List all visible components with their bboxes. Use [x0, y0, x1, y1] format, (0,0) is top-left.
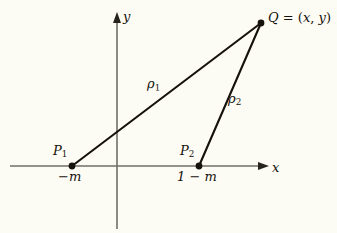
x-axis-label: x — [272, 161, 279, 174]
rho2-symbol: ρ — [228, 91, 236, 106]
point-q-label: Q = (x, y) — [268, 11, 331, 24]
q-close-paren: ) — [326, 10, 331, 25]
p1-symbol: P — [53, 143, 62, 158]
p1-subscript: 1 — [62, 149, 68, 159]
rho1-symbol: ρ — [147, 76, 155, 91]
y-axis — [113, 12, 121, 229]
p2-subscript: 2 — [189, 149, 195, 159]
geometry-figure: y x Q = (x, y) P1 P2 −m 1 − m ρ1 ρ2 — [0, 0, 337, 233]
x-axis-arrowhead-icon — [258, 162, 269, 170]
rho2-subscript: 2 — [236, 97, 242, 107]
q-symbol: Q — [268, 10, 279, 25]
y-axis-label: y — [123, 10, 130, 23]
segment-rho2-label: ρ2 — [228, 92, 241, 107]
diagram-canvas — [0, 0, 337, 233]
tick-label-p2: 1 − m — [177, 170, 217, 183]
point-q-dot — [258, 20, 265, 27]
rho1-subscript: 1 — [155, 82, 161, 92]
p2-symbol: P — [180, 143, 189, 158]
tick-label-p1: −m — [58, 170, 81, 183]
x-axis — [10, 162, 269, 170]
point-p1-label: P1 — [53, 144, 67, 159]
q-y-component: y — [319, 10, 326, 25]
segment-rho1-label: ρ1 — [147, 77, 160, 92]
y-axis-arrowhead-icon — [113, 12, 121, 23]
point-p2-label: P2 — [180, 144, 194, 159]
q-equals-sign: = — [283, 10, 294, 25]
